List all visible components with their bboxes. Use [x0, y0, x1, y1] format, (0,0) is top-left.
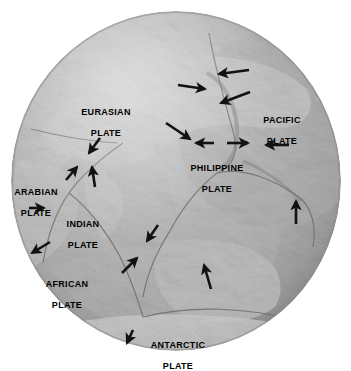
- arrow-eurasia-east: [178, 85, 205, 89]
- arrow-indian-north: [92, 167, 95, 187]
- arrow-africa-southwest: [32, 242, 50, 253]
- arrow-arabian-northeast: [66, 167, 77, 180]
- arrow-antarctic-southwest: [127, 330, 133, 343]
- arrow-australia-northeast: [122, 258, 137, 273]
- arrow-pacific-west-mid: [221, 92, 250, 103]
- arrow-philippine-southeast: [166, 123, 190, 139]
- arrow-australia-north: [204, 265, 211, 289]
- arrow-indo-australia-south: [147, 225, 158, 241]
- arrow-pacific-west-north: [219, 70, 249, 74]
- arrow-eurasia-southwest: [89, 138, 100, 153]
